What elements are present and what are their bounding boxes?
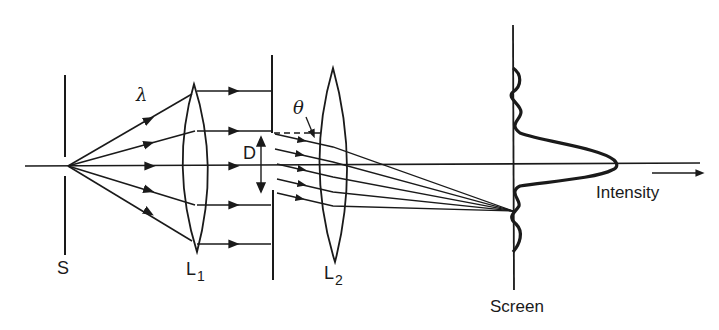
- lens-l1: [183, 84, 208, 252]
- angle-pointer: [306, 117, 313, 134]
- diffracted-rays: [275, 134, 513, 211]
- label-lens-2: L2: [324, 264, 342, 282]
- label-lens-2-sub: 2: [335, 272, 343, 288]
- label-screen: Screen: [490, 298, 544, 315]
- label-source: S: [57, 259, 69, 277]
- label-lens-1: L1: [186, 260, 204, 278]
- intensity-profile: [511, 68, 617, 252]
- label-intensity: Intensity: [596, 184, 659, 201]
- label-lens-2-main: L: [324, 263, 334, 283]
- optical-axis: [25, 163, 700, 166]
- label-lens-1-main: L: [186, 259, 196, 279]
- diffraction-diagram: [0, 0, 719, 330]
- aperture: [272, 55, 273, 280]
- label-slit-width: D: [243, 144, 256, 162]
- label-angle: θ: [293, 99, 304, 117]
- diverging-rays: [68, 94, 195, 241]
- label-wavelength: λ: [136, 86, 147, 104]
- label-lens-1-sub: 1: [197, 268, 205, 284]
